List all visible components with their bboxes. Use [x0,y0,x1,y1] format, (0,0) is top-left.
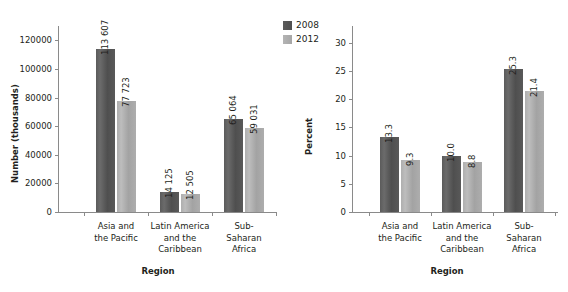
y-axis-tick-label: 20000 [2,178,52,188]
bar-value-label: 10.0 [446,143,456,162]
x-axis-tick [148,212,149,216]
bar-right-g0-2012 [401,160,420,212]
bar-value-label: 65 064 [228,95,238,125]
x-axis-line [58,212,276,213]
x-axis-tick [276,212,277,216]
plot-area-right: 05101520253013.39.3Asia andthe Pacific10… [352,26,558,212]
y-axis-tick [349,156,352,157]
x-axis-tick [84,212,85,216]
y-axis-tick-label: 30 [296,38,346,48]
y-axis-tick-label: 100000 [2,64,52,74]
x-axis-tick [431,212,432,216]
x-axis-tick-label-line: Africa [202,244,286,256]
y-axis-tick [349,184,352,185]
x-axis-tick-label-line: Sub- [202,221,286,233]
y-axis-tick [349,71,352,72]
x-axis-tick-label-line: Saharan [482,233,566,245]
y-axis-tick [55,69,58,70]
bar-left-g2-2012 [245,128,264,212]
bar-value-label: 14 125 [164,168,174,198]
x-axis-category-label: Sub-SaharanAfrica [202,221,286,256]
y-axis-tick-label: 0 [296,207,346,217]
y-axis-tick [349,127,352,128]
y-axis-tick [55,212,58,213]
x-axis-tick [369,212,370,216]
bar-value-label: 21.4 [529,78,539,97]
x-axis-tick-label-line: Africa [482,244,566,256]
x-axis-title-left: Region [58,266,258,276]
bar-value-label: 9.3 [405,152,415,166]
bar-value-label: 25.3 [508,56,518,75]
y-axis-tick [349,43,352,44]
y-axis-tick [55,98,58,99]
x-axis-category-label: Sub-SaharanAfrica [482,221,566,256]
bar-left-g0-2012 [117,101,136,212]
y-axis-tick-label: 10 [296,151,346,161]
bar-value-label: 77 723 [121,77,131,107]
y-axis-tick [349,212,352,213]
figure: Number (thousands) 020000400006000080000… [0,0,568,292]
bar-value-label: 59 031 [249,104,259,134]
plot-area-left: 020000400006000080000100000120000113 607… [58,26,276,212]
bar-right-g0-2008 [380,137,399,212]
bar-right-g1-2008 [442,156,461,212]
x-axis-tick [212,212,213,216]
bar-left-g0-2008 [96,49,115,212]
x-axis-tick [555,212,556,216]
y-axis-tick-label: 40000 [2,150,52,160]
x-axis-tick-label-line: Sub- [482,221,566,233]
y-axis-tick [55,40,58,41]
y-axis-tick-label: 15 [296,122,346,132]
chart-panel-left: Number (thousands) 020000400006000080000… [0,0,284,292]
bar-value-label: 13.3 [384,124,394,143]
bar-right-g1-2012 [463,162,482,212]
bar-value-label: 8.8 [467,155,477,169]
y-axis-line [58,26,59,212]
y-axis-tick-label: 80000 [2,93,52,103]
x-axis-title-right: Region [352,266,542,276]
y-axis-tick-label: 120000 [2,35,52,45]
bar-right-g2-2008 [504,69,523,212]
y-axis-tick-label: 20 [296,94,346,104]
bar-value-label: 113 607 [100,20,110,55]
bar-value-label: 12 505 [185,170,195,200]
y-axis-tick [55,126,58,127]
chart-panel-right: Percent 05101520253013.39.3Asia andthe P… [284,0,568,292]
y-axis-tick [55,183,58,184]
y-axis-tick-label: 25 [296,66,346,76]
x-axis-tick-label-line: Saharan [202,233,286,245]
y-axis-tick-label: 60000 [2,121,52,131]
y-axis-line [352,26,353,212]
x-axis-tick [493,212,494,216]
y-axis-tick-label: 5 [296,179,346,189]
y-axis-tick [349,99,352,100]
y-axis-tick-label: 0 [2,207,52,217]
bar-right-g2-2012 [525,91,544,212]
y-axis-tick [55,155,58,156]
bar-left-g2-2008 [224,119,243,212]
x-axis-line [352,212,558,213]
